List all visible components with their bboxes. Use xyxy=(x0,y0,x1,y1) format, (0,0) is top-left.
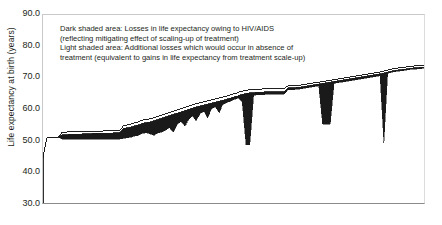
y-tick-50-0: 50.0 xyxy=(4,136,40,145)
y-tick-80-0: 80.0 xyxy=(4,41,40,50)
y-tick-40-0: 40.0 xyxy=(4,167,40,176)
y-tick-70-0: 70.0 xyxy=(4,72,40,81)
dark-shaded-area xyxy=(43,67,425,158)
legend-line-1: Dark shaded area: Losses in life expecta… xyxy=(60,24,410,34)
chart-figure: Life expectancy at birth (years) 90.080.… xyxy=(0,0,442,225)
legend-line-2: (reflecting mitigating effect of scaling… xyxy=(60,34,410,44)
y-tick-30-0: 30.0 xyxy=(4,199,40,208)
light-shaded-area xyxy=(43,65,425,157)
legend-line-4: treatment (equivalent to gains in life e… xyxy=(60,53,410,63)
y-tick-90-0: 90.0 xyxy=(4,9,40,18)
chart-legend: Dark shaded area: Losses in life expecta… xyxy=(60,24,410,62)
y-axis-tick-labels: 90.080.070.060.050.040.030.0 xyxy=(0,0,40,225)
legend-line-3: Light shaded area: Additional losses whi… xyxy=(60,43,410,53)
upper-outline-line xyxy=(43,65,425,157)
y-tick-60-0: 60.0 xyxy=(4,104,40,113)
